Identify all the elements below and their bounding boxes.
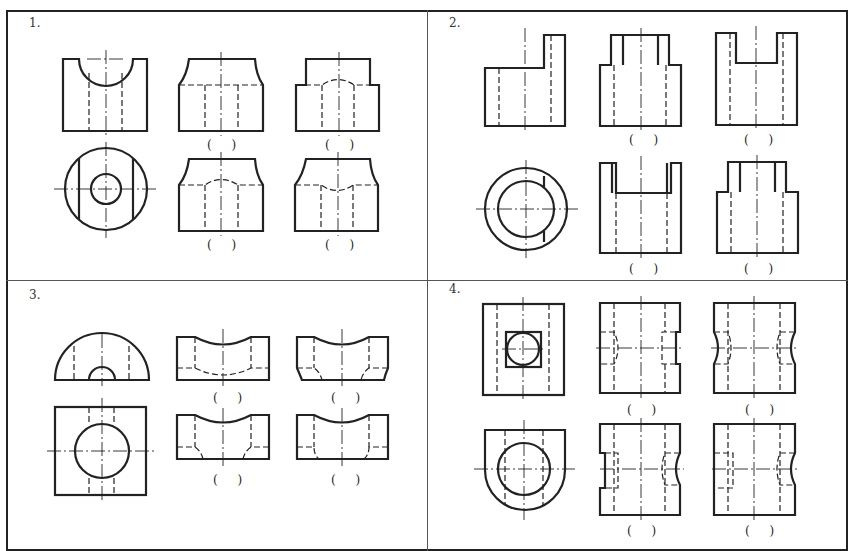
problem-1-option-d (295, 152, 378, 236)
problem-1-option-b (296, 52, 379, 136)
problem-2-option-d (717, 155, 798, 259)
problem-2-top-view (476, 160, 578, 258)
problem-3-option-a (177, 329, 269, 386)
technical-drawings: .o{fill:none;stroke:#222;stroke-width:2.… (0, 0, 850, 551)
problem-4-option-a (596, 296, 681, 399)
problem-4-top-view (474, 420, 575, 520)
problem-2-front-view (485, 28, 565, 133)
problem-3-option-d (297, 408, 388, 466)
problem-4-front-view (483, 297, 564, 401)
problem-2-option-b (716, 26, 797, 131)
problem-3-top-view (47, 398, 156, 503)
problem-3-option-b (297, 329, 388, 386)
problem-1-front-view (63, 50, 147, 138)
problem-2-option-a (600, 28, 681, 133)
problem-1-top-view (54, 142, 158, 238)
problem-3-option-c (177, 408, 269, 466)
problem-2-option-c (600, 156, 681, 259)
problem-1-option-c (179, 152, 263, 236)
problem-3-front-view (55, 333, 149, 386)
problem-4-option-d (712, 418, 798, 520)
problem-1-option-a (179, 52, 263, 136)
problem-4-option-c (600, 418, 684, 520)
problem-4-option-b (711, 296, 798, 399)
